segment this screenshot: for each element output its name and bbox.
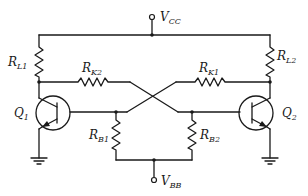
resistor-rk2: RK2 [39,61,130,86]
rb1-label: RB1 [88,128,109,144]
resistor-rb1: RB1 [88,112,120,160]
vbb-terminal: VBB [152,160,182,190]
vbb-label: VBB [161,174,182,190]
cross-wire-2 [127,82,176,112]
resistor-rl1: RL1 [7,35,43,82]
q1-label: Q1 [14,106,29,122]
rb2-label: RB2 [199,128,220,144]
vcc-junction [150,33,154,37]
transistor-q1: Q1 [14,82,70,158]
rk1-label: RK1 [198,61,219,77]
resistor-rb2: RB2 [188,112,220,160]
vcc-terminal: VCC [150,10,181,35]
resistor-rk1: RK1 [176,61,270,86]
circuit-diagram: VCC RL1 RL2 RK2 RK1 Q1 [0,0,308,196]
resistor-rl2: RL2 [266,35,296,82]
cross-wire-1 [130,82,178,112]
vcc-label: VCC [160,10,181,26]
q2-label: Q2 [282,106,297,122]
rl1-label: RL1 [7,55,27,71]
rk2-label: RK2 [81,61,102,77]
ground-icon [31,158,47,164]
rl2-label: RL2 [276,49,296,65]
ground-icon [262,158,278,164]
transistor-q2: Q2 [239,82,297,158]
